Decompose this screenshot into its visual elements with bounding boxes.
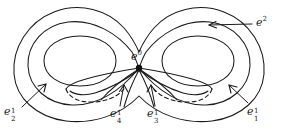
zero-cell-vertex-dot <box>136 65 142 71</box>
right-inner-oval-curve <box>162 36 234 86</box>
label-e2: e2 <box>256 16 267 28</box>
cw-complex-figure: e0 e2 e11 e12 e13 e14 <box>0 0 281 131</box>
label-e4-1-base: e <box>110 107 117 120</box>
arrow-e1-1 <box>229 85 248 103</box>
label-e1-1: e11 <box>247 106 258 124</box>
label-e1-1-subscript: 1 <box>254 116 258 123</box>
left-inner-oval-curve <box>44 36 116 86</box>
arrow-e3-1 <box>147 85 156 106</box>
label-e2-1-superscript: 1 <box>11 108 15 115</box>
label-e1-1-base: e <box>247 105 254 118</box>
label-e4-1-superscript: 1 <box>117 110 121 117</box>
label-e2-1-base: e <box>4 105 11 118</box>
label-e3-1-base: e <box>147 107 154 120</box>
label-e3-1-superscript: 1 <box>154 110 158 117</box>
label-e3-1-scripts: 13 <box>154 113 158 127</box>
figure-canvas <box>0 0 281 131</box>
arrow-e2-1 <box>22 84 46 107</box>
label-e3-1: e13 <box>147 108 158 126</box>
label-e1-1-superscript: 1 <box>254 108 258 115</box>
label-e2-superscript: 2 <box>263 15 267 23</box>
label-e0: e0 <box>131 50 142 62</box>
label-e1-1-scripts: 11 <box>254 111 258 125</box>
label-e2-1-scripts: 12 <box>11 111 15 125</box>
left-thin-lobe-lower-curve <box>70 70 139 95</box>
right-thin-lobe-lower-curve <box>139 70 208 95</box>
label-e2-1: e12 <box>4 106 15 124</box>
arrow-e4-1 <box>120 85 129 106</box>
label-e3-1-subscript: 3 <box>154 118 158 125</box>
label-e2-1-subscript: 2 <box>11 116 15 123</box>
label-e0-superscript: 0 <box>138 49 142 57</box>
label-e4-1-scripts: 14 <box>117 113 121 127</box>
label-e4-1: e14 <box>110 108 121 126</box>
label-e4-1-subscript: 4 <box>117 118 121 125</box>
